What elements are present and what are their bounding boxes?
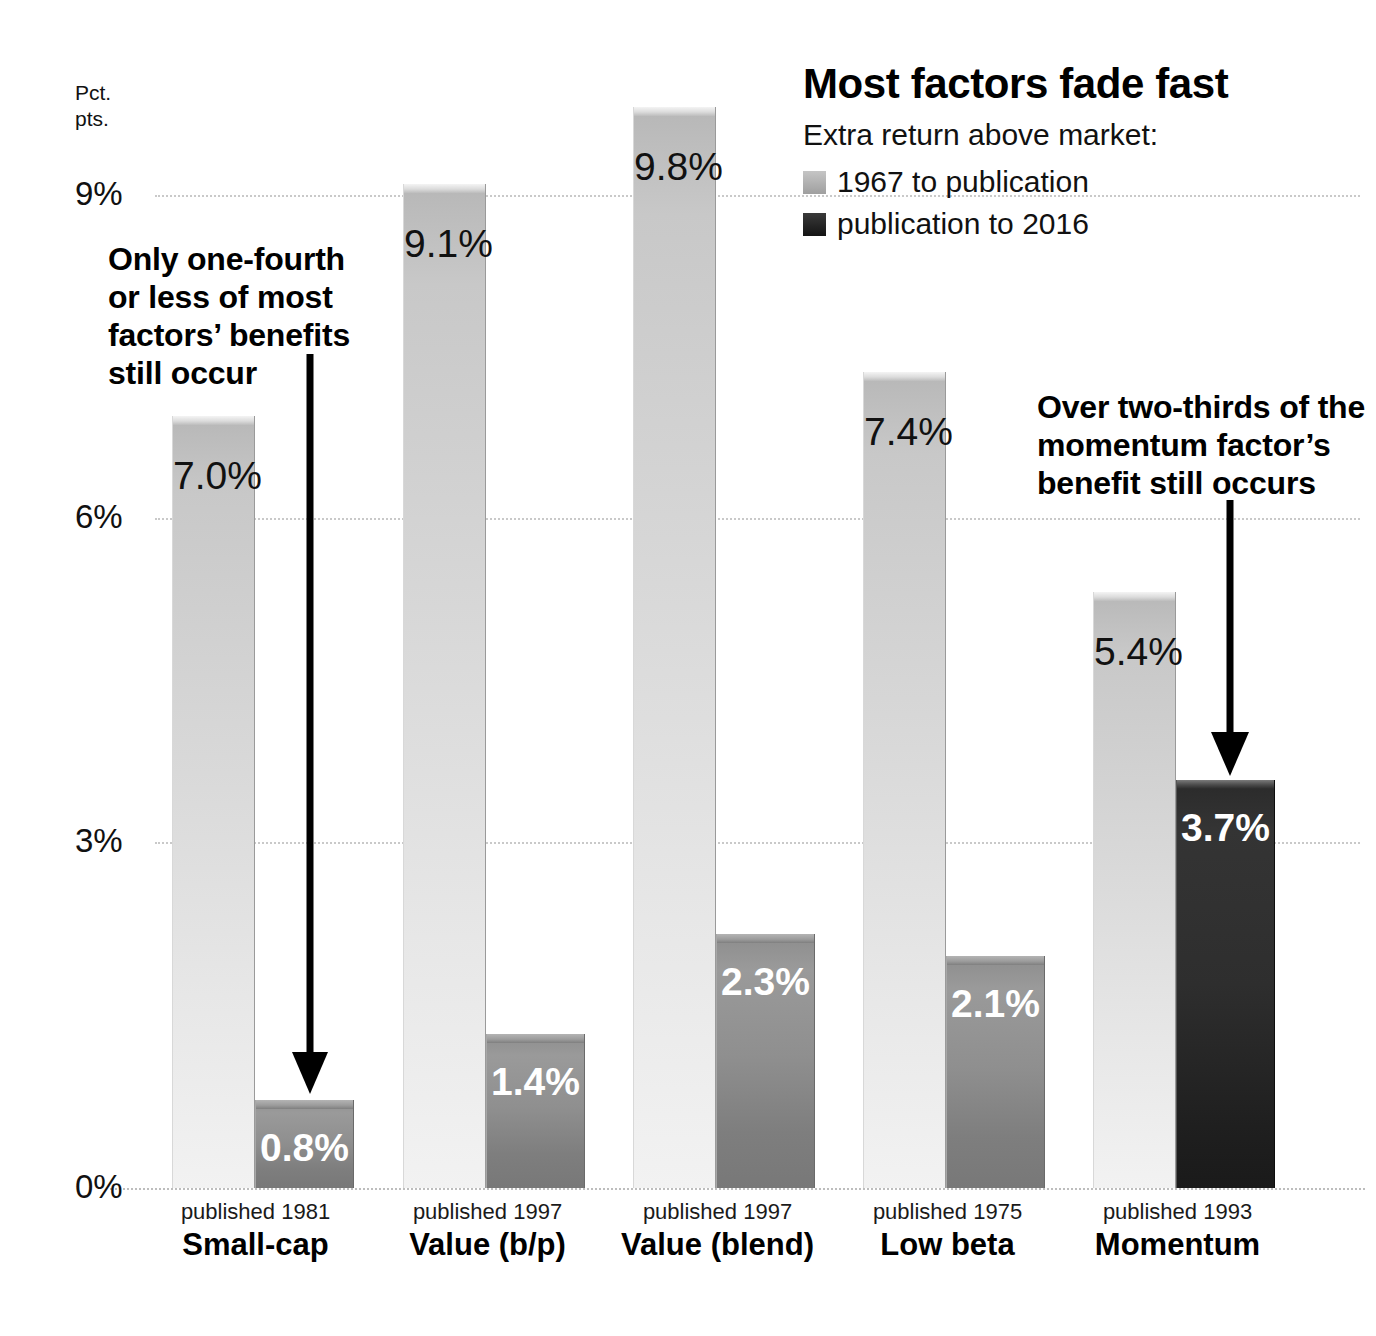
x-axis-group-low-beta: published 1975 Low beta <box>845 1198 1050 1264</box>
legend-swatch-icon-light <box>803 171 826 194</box>
y-axis-unit-line-1: Pct. <box>75 80 165 106</box>
x-axis-group-value-bp: published 1997 Value (b/p) <box>385 1198 590 1264</box>
bar-value-label: 5.4% <box>1094 630 1175 674</box>
bar-low-beta-2016: 2.1% <box>946 956 1045 1188</box>
bar-small-cap-2016: 0.8% <box>255 1100 354 1188</box>
bar-value-label: 9.1% <box>404 222 485 266</box>
bar-value-blend-2016: 2.3% <box>716 934 815 1188</box>
legend-swatch-icon-dark <box>803 213 826 236</box>
bar-momentum-2016: 3.7% <box>1176 780 1275 1188</box>
bar-top-cap <box>256 1100 353 1109</box>
legend-label: publication to 2016 <box>837 207 1089 241</box>
annotation-line: Only one-fourth <box>108 240 363 278</box>
legend-label: 1967 to publication <box>837 165 1089 199</box>
bar-top-cap <box>1094 592 1175 601</box>
bar-value-label: 2.3% <box>717 960 814 1004</box>
bar-top-cap <box>1177 780 1274 789</box>
x-axis-published-year: published 1997 <box>615 1198 820 1226</box>
x-axis-category-name: Value (b/p) <box>385 1226 590 1264</box>
right-annotation: Over two-thirds of the momentum factor’s… <box>1037 388 1367 502</box>
bar-value-label: 2.1% <box>947 982 1044 1026</box>
right-annotation-arrow-icon <box>1208 498 1252 780</box>
x-axis-group-momentum: published 1993 Momentum <box>1075 1198 1280 1264</box>
chart-subtitle: Extra return above market: <box>803 118 1158 152</box>
bar-momentum-1967: 5.4% <box>1093 592 1176 1188</box>
annotation-line: benefit still occurs <box>1037 464 1367 502</box>
bar-top-cap <box>173 416 254 425</box>
y-axis-unit-line-2: pts. <box>75 106 165 132</box>
bar-value-label: 1.4% <box>487 1060 584 1104</box>
y-tick-3: 3% <box>75 822 123 860</box>
bar-low-beta-1967: 7.4% <box>863 372 946 1188</box>
factor-decay-bar-chart: Pct. pts. 9% 6% 3% 0% 7.0% 0.8% 9.1% 1.4… <box>0 0 1376 1336</box>
y-axis-unit-label: Pct. pts. <box>75 80 165 132</box>
x-axis-category-name: Small-cap <box>153 1226 358 1264</box>
bar-value-label: 9.8% <box>634 145 715 189</box>
gridline-6 <box>155 518 1360 520</box>
bar-value-label: 7.4% <box>864 410 945 454</box>
annotation-line: or less of most <box>108 278 363 316</box>
x-axis-category-name: Value (blend) <box>615 1226 820 1264</box>
bar-top-cap <box>634 107 715 116</box>
x-axis-group-small-cap: published 1981 Small-cap <box>153 1198 358 1264</box>
bar-value-blend-1967: 9.8% <box>633 107 716 1188</box>
bar-value-label: 0.8% <box>256 1126 353 1170</box>
bar-value-bp-1967: 9.1% <box>403 184 486 1188</box>
annotation-line: momentum factor’s <box>1037 426 1367 464</box>
bar-top-cap <box>947 956 1044 965</box>
annotation-line: factors’ benefits <box>108 316 363 354</box>
bar-top-cap <box>717 934 814 943</box>
y-tick-6: 6% <box>75 498 123 536</box>
x-axis-group-value-blend: published 1997 Value (blend) <box>615 1198 820 1264</box>
bar-value-label: 7.0% <box>173 454 254 498</box>
x-axis-published-year: published 1975 <box>845 1198 1050 1226</box>
left-annotation-arrow-icon <box>288 352 332 1100</box>
bar-top-cap <box>404 184 485 193</box>
bar-top-cap <box>864 372 945 381</box>
axis-baseline-0 <box>110 1188 1365 1190</box>
x-axis-category-name: Momentum <box>1075 1226 1280 1264</box>
x-axis-published-year: published 1981 <box>153 1198 358 1226</box>
chart-title: Most factors fade fast <box>803 60 1228 108</box>
annotation-line: Over two-thirds of the <box>1037 388 1367 426</box>
y-tick-0: 0% <box>75 1168 123 1206</box>
legend-item-1967-to-publication: 1967 to publication <box>803 165 1089 199</box>
legend-item-publication-to-2016: publication to 2016 <box>803 207 1089 241</box>
bar-top-cap <box>487 1034 584 1043</box>
x-axis-category-name: Low beta <box>845 1226 1050 1264</box>
gridline-9 <box>155 195 1360 197</box>
y-tick-9: 9% <box>75 175 123 213</box>
bar-value-label: 3.7% <box>1177 806 1274 850</box>
bar-small-cap-1967: 7.0% <box>172 416 255 1188</box>
bar-value-bp-2016: 1.4% <box>486 1034 585 1188</box>
x-axis-published-year: published 1993 <box>1075 1198 1280 1226</box>
x-axis-published-year: published 1997 <box>385 1198 590 1226</box>
